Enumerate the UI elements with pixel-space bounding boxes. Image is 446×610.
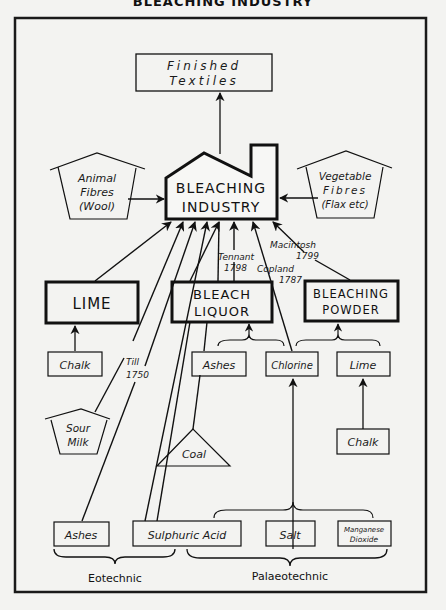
svg-text:Animal: Animal bbox=[77, 172, 116, 185]
svg-text:Manganese: Manganese bbox=[344, 526, 384, 534]
chlorine-box: Chlorine bbox=[266, 352, 318, 376]
lime-small-box: Lime bbox=[337, 352, 390, 376]
line-liquor-to-sulphuric bbox=[157, 322, 190, 521]
arrow-lime-to-industry bbox=[95, 222, 171, 281]
brace-eotechnic bbox=[54, 549, 175, 564]
manganese-dioxide-box: Manganese Dioxide bbox=[338, 521, 391, 546]
svg-text:Milk: Milk bbox=[68, 436, 90, 448]
line-macintosh-low bbox=[315, 260, 350, 280]
brace-powder bbox=[296, 324, 380, 346]
lime-box: LIME bbox=[46, 282, 138, 323]
line-sourmilk-a bbox=[95, 358, 124, 412]
svg-text:Salt: Salt bbox=[279, 529, 301, 542]
annotation-tennant: Tennant bbox=[218, 252, 255, 262]
annotation-1787: 1787 bbox=[279, 275, 302, 285]
svg-text:Lime: Lime bbox=[350, 359, 377, 372]
svg-text:POWDER: POWDER bbox=[322, 303, 379, 317]
animal-fibres-house: Animal Fibres (Wool) bbox=[50, 153, 145, 219]
annotation-macintosh: Macintosh bbox=[270, 240, 316, 250]
svg-text:BLEACHING: BLEACHING bbox=[313, 287, 389, 301]
svg-text:Sour: Sour bbox=[66, 422, 91, 434]
finished-textiles-box: Finished Textiles bbox=[136, 54, 272, 91]
annotation-till: Till bbox=[126, 357, 139, 367]
svg-text:Chalk: Chalk bbox=[348, 436, 379, 449]
svg-text:Fibres: Fibres bbox=[80, 186, 114, 199]
svg-text:Coal: Coal bbox=[182, 448, 206, 461]
brace-palaeotechnic bbox=[187, 549, 387, 566]
line-liquor-to-ashes bbox=[204, 322, 207, 351]
svg-text:BLEACHING: BLEACHING bbox=[176, 180, 266, 196]
svg-text:LIQUOR: LIQUOR bbox=[194, 304, 250, 319]
sulphuric-acid-box: Sulphuric Acid bbox=[133, 521, 241, 546]
svg-text:Ashes: Ashes bbox=[202, 359, 236, 372]
svg-text:(Wool): (Wool) bbox=[79, 200, 115, 213]
svg-text:Sulphuric Acid: Sulphuric Acid bbox=[148, 529, 228, 542]
svg-text:Chlorine: Chlorine bbox=[271, 360, 313, 371]
ashes-bottom-box: Ashes bbox=[54, 522, 109, 546]
svg-text:INDUSTRY: INDUSTRY bbox=[182, 199, 260, 215]
vegetable-fibres-house: Vegetable Fibres (Flax etc) bbox=[297, 151, 392, 218]
annotation-1799: 1799 bbox=[296, 251, 319, 261]
sour-milk-house: Sour Milk bbox=[45, 409, 110, 454]
svg-text:Ashes: Ashes bbox=[64, 529, 98, 542]
ashes-mid-box: Ashes bbox=[192, 352, 246, 376]
bleaching-industry-factory: BLEACHING INDUSTRY bbox=[166, 145, 277, 219]
coal-triangle: Coal bbox=[157, 429, 230, 466]
era-palaeotechnic: Palaeotechnic bbox=[252, 570, 328, 583]
annotation-copland: Copland bbox=[257, 264, 294, 274]
line-ashes-to-coal bbox=[193, 375, 200, 429]
svg-text:Fibres: Fibres bbox=[323, 184, 367, 196]
svg-text:(Flax etc): (Flax etc) bbox=[321, 199, 368, 210]
chalk-right-box: Chalk bbox=[337, 429, 389, 454]
svg-text:Finished: Finished bbox=[167, 59, 241, 73]
svg-text:BLEACH: BLEACH bbox=[193, 287, 251, 302]
salt-box: Salt bbox=[266, 521, 315, 546]
svg-text:Vegetable: Vegetable bbox=[319, 170, 372, 182]
svg-text:Dioxide: Dioxide bbox=[350, 535, 379, 544]
line-ashes-a bbox=[82, 382, 135, 521]
svg-text:Textiles: Textiles bbox=[169, 74, 238, 88]
brace-liquor bbox=[218, 324, 284, 346]
svg-text:Chalk: Chalk bbox=[60, 359, 91, 372]
era-eotechnic: Eotechnic bbox=[88, 572, 142, 585]
bleaching-powder-box: BLEACHING POWDER bbox=[305, 281, 398, 321]
bleaching-diagram: BLEACHING INDUSTRY Finished Textiles BLE… bbox=[0, 0, 446, 610]
annotation-1798: 1798 bbox=[224, 263, 247, 273]
annotation-1750: 1750 bbox=[126, 370, 149, 380]
chalk-left-box: Chalk bbox=[48, 352, 102, 376]
page-header: BLEACHING INDUSTRY bbox=[133, 0, 313, 9]
svg-text:LIME: LIME bbox=[72, 295, 111, 313]
